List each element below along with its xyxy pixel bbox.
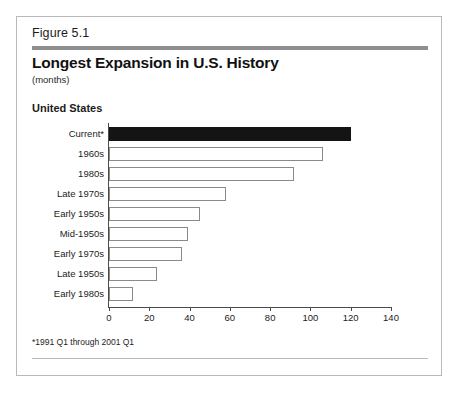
bar-row: Mid-1950s	[32, 225, 428, 245]
x-tick-mark	[149, 307, 150, 311]
footnote: *1991 Q1 through 2001 Q1	[32, 337, 134, 347]
bar	[109, 127, 351, 141]
bar-category-label: 1980s	[78, 168, 104, 179]
bar-category-label: Late 1970s	[57, 188, 104, 199]
bar-track	[109, 147, 391, 161]
bar-category-label: Current*	[69, 128, 104, 139]
x-tick-mark	[310, 307, 311, 311]
bar	[109, 287, 133, 301]
bar-track	[109, 267, 391, 281]
figure-number: Figure 5.1	[32, 26, 89, 40]
figure-title: Longest Expansion in U.S. History	[32, 54, 279, 72]
x-tick-label: 60	[225, 312, 236, 323]
bar	[109, 267, 157, 281]
bar-row: Late 1950s	[32, 265, 428, 285]
footer-divider	[32, 358, 428, 359]
x-tick-label: 120	[343, 312, 359, 323]
x-tick-mark	[230, 307, 231, 311]
region-label: United States	[32, 102, 102, 114]
header-divider	[32, 46, 428, 50]
x-tick-mark	[190, 307, 191, 311]
bar	[109, 247, 182, 261]
bar-rows: Current*1960s1980sLate 1970sEarly 1950sM…	[32, 125, 428, 305]
figure-subtitle: (months)	[32, 74, 69, 85]
bar-row: Late 1970s	[32, 185, 428, 205]
bar-category-label: Early 1970s	[54, 248, 104, 259]
bar-track	[109, 187, 391, 201]
x-tick-mark	[270, 307, 271, 311]
x-tick-mark	[391, 307, 392, 311]
bar-category-label: Mid-1950s	[60, 228, 104, 239]
bar-row: Current*	[32, 125, 428, 145]
x-tick-mark	[109, 307, 110, 311]
bar-track	[109, 127, 391, 141]
bar	[109, 187, 226, 201]
bar	[109, 227, 188, 241]
x-tick-label: 40	[184, 312, 195, 323]
x-tick-label: 0	[106, 312, 111, 323]
bar-track	[109, 167, 391, 181]
bar-category-label: Late 1950s	[57, 268, 104, 279]
bar	[109, 147, 323, 161]
x-tick-label: 140	[383, 312, 399, 323]
x-axis-ticks: 020406080100120140	[32, 307, 428, 329]
x-tick-label: 80	[265, 312, 276, 323]
x-tick-label: 100	[302, 312, 318, 323]
bar-chart: Current*1960s1980sLate 1970sEarly 1950sM…	[32, 123, 428, 323]
bar-row: 1980s	[32, 165, 428, 185]
x-tick-mark	[351, 307, 352, 311]
bar	[109, 167, 294, 181]
x-tick-label: 20	[144, 312, 155, 323]
bar-track	[109, 207, 391, 221]
bar-row: Early 1950s	[32, 205, 428, 225]
bar	[109, 207, 200, 221]
bar-category-label: 1960s	[78, 148, 104, 159]
bar-track	[109, 247, 391, 261]
bar-track	[109, 227, 391, 241]
bar-category-label: Early 1980s	[54, 288, 104, 299]
bar-row: Early 1970s	[32, 245, 428, 265]
figure-panel: Figure 5.1 Longest Expansion in U.S. His…	[16, 16, 442, 376]
bar-track	[109, 287, 391, 301]
bar-row: Early 1980s	[32, 285, 428, 305]
bar-row: 1960s	[32, 145, 428, 165]
bar-category-label: Early 1950s	[54, 208, 104, 219]
